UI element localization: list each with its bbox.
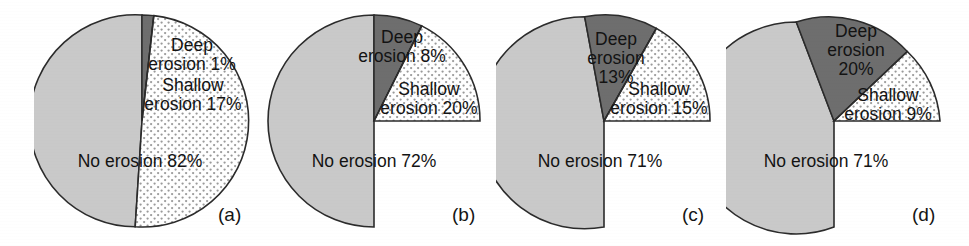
label-shallow-erosion-d: Shallow erosion 9%: [832, 86, 944, 124]
label-deep-erosion-a: Deep erosion 1%: [142, 36, 242, 74]
erosion-pie-chart-figure: Deep erosion 1% Shallow erosion 17% No e…: [0, 0, 969, 246]
label-deep-erosion-d-line1: Deep: [804, 22, 908, 41]
label-shallow-erosion-c-line1: Shallow: [600, 80, 718, 99]
label-shallow-erosion-b-line1: Shallow: [370, 80, 488, 99]
label-no-erosion-c-line1: No erosion 71%: [510, 152, 690, 171]
label-deep-erosion-d-line3: 20%: [804, 60, 908, 79]
label-no-erosion-b-line1: No erosion 72%: [284, 152, 464, 171]
pie-panel-b: Deep erosion 8% Shallow erosion 20% No e…: [266, 0, 486, 246]
label-no-erosion-c: No erosion 71%: [510, 152, 690, 171]
label-deep-erosion-d-line2: erosion: [804, 41, 908, 60]
label-deep-erosion-a-line1: Deep: [142, 36, 242, 55]
label-deep-erosion-a-line2: erosion 1%: [142, 55, 242, 74]
label-deep-erosion-d: Deep erosion 20%: [804, 22, 908, 79]
label-deep-erosion-b-line1: Deep: [350, 28, 454, 47]
label-shallow-erosion-c-line2: erosion 15%: [600, 99, 718, 118]
pie-panel-d: Deep erosion 20% Shallow erosion 9% No e…: [726, 0, 946, 246]
panel-letter-a: (a): [218, 204, 241, 226]
label-shallow-erosion-a-line2: erosion 17%: [134, 95, 252, 114]
panel-letter-d: (d): [912, 204, 935, 226]
pie-panel-c: Deep erosion 13% Shallow erosion 15% No …: [496, 0, 716, 246]
label-deep-erosion-b-line2: erosion 8%: [350, 47, 454, 66]
label-no-erosion-b: No erosion 72%: [284, 152, 464, 171]
label-shallow-erosion-d-line2: erosion 9%: [832, 105, 944, 124]
slice-no-erosion-a: [34, 15, 142, 227]
pie-panel-a: Deep erosion 1% Shallow erosion 17% No e…: [34, 0, 254, 246]
label-deep-erosion-c-line2: erosion: [568, 49, 664, 68]
label-shallow-erosion-b: Shallow erosion 20%: [370, 80, 488, 118]
label-shallow-erosion-a-line1: Shallow: [134, 76, 252, 95]
label-shallow-erosion-a: Shallow erosion 17%: [134, 76, 252, 114]
label-shallow-erosion-d-line1: Shallow: [832, 86, 944, 105]
label-shallow-erosion-c: Shallow erosion 15%: [600, 80, 718, 118]
label-no-erosion-d: No erosion 71%: [736, 152, 916, 171]
label-shallow-erosion-b-line2: erosion 20%: [370, 99, 488, 118]
label-deep-erosion-b: Deep erosion 8%: [350, 28, 454, 66]
label-no-erosion-a: No erosion 82%: [50, 152, 230, 171]
label-no-erosion-a-line1: No erosion 82%: [50, 152, 230, 171]
label-deep-erosion-c-line1: Deep: [568, 30, 664, 49]
panel-letter-c: (c): [682, 204, 704, 226]
label-no-erosion-d-line1: No erosion 71%: [736, 152, 916, 171]
panel-letter-b: (b): [452, 204, 475, 226]
